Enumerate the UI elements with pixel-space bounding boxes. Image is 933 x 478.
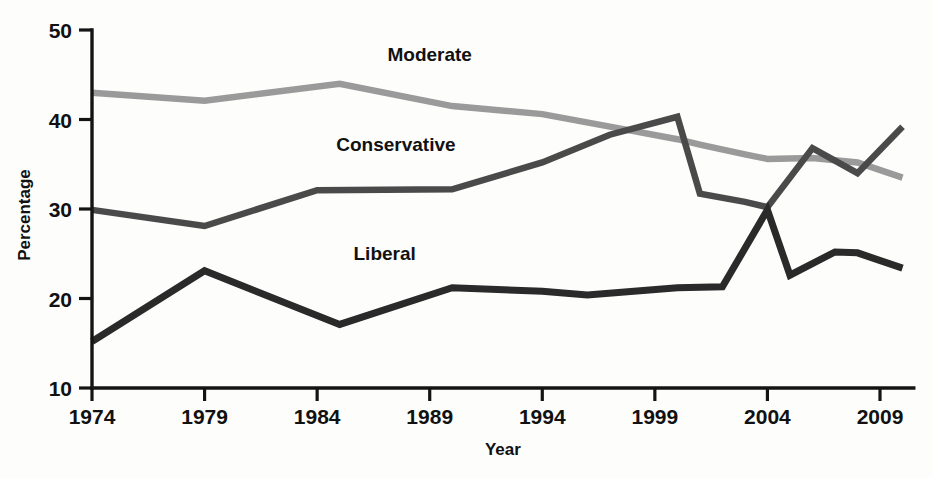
y-tick-label: 40: [49, 109, 72, 132]
x-tick-label: 1999: [631, 405, 678, 428]
chart-page: 1020304050197419791984198919941999200420…: [0, 0, 933, 478]
y-tick-label: 20: [49, 288, 72, 311]
series-layer: [92, 84, 903, 342]
y-axis-title: Percentage: [15, 169, 34, 261]
series-label-conservative: Conservative: [336, 134, 455, 155]
x-tick-label: 1984: [294, 405, 341, 428]
series-labels-layer: ModerateConservativeLiberal: [336, 44, 472, 264]
line-chart: 1020304050197419791984198919941999200420…: [0, 0, 933, 478]
series-label-moderate: Moderate: [387, 44, 471, 65]
y-tick-label: 50: [49, 19, 72, 42]
series-line-liberal: [92, 210, 903, 342]
series-line-conservative: [92, 117, 903, 226]
x-tick-label: 1989: [406, 405, 453, 428]
y-tick-label: 10: [49, 377, 72, 400]
axes-layer: [92, 30, 914, 388]
x-tick-label: 1994: [519, 405, 566, 428]
x-tick-label: 1979: [181, 405, 228, 428]
x-axis-title: Year: [485, 440, 521, 459]
series-line-moderate: [92, 84, 903, 178]
x-tick-label: 2004: [744, 405, 791, 428]
y-tick-label: 30: [49, 198, 72, 221]
x-tick-label: 2009: [857, 405, 904, 428]
x-tick-label: 1974: [69, 405, 116, 428]
series-label-liberal: Liberal: [354, 243, 416, 264]
